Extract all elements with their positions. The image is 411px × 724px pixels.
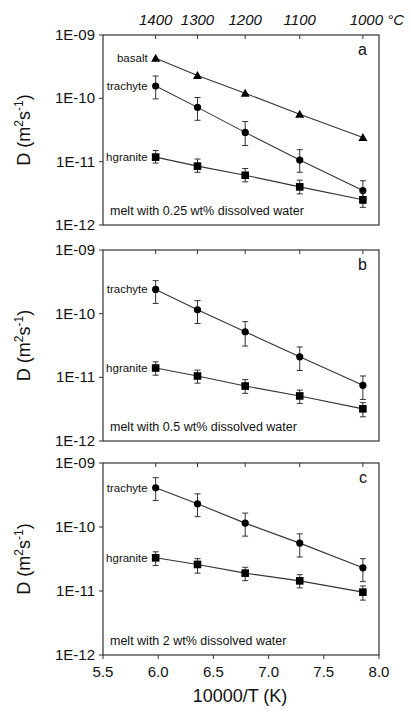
panel-letter: c xyxy=(359,469,367,486)
data-point-circle xyxy=(359,564,366,571)
series-label: trachyte xyxy=(107,80,148,92)
series-label: trachyte xyxy=(107,482,148,494)
data-point-circle xyxy=(242,328,249,335)
series-hgranite: hgranite xyxy=(106,151,367,208)
x-axis: 5.56.06.57.07.58.0 xyxy=(93,655,390,680)
x-tick-label: 8.0 xyxy=(369,663,390,680)
data-point-square xyxy=(359,588,367,596)
top-axis-tick-label: 1300 xyxy=(181,11,215,28)
data-point-circle xyxy=(296,540,303,547)
series-label: hgranite xyxy=(106,552,148,564)
x-tick-label: 7.0 xyxy=(258,663,279,680)
x-tick-label: 6.0 xyxy=(148,663,169,680)
series-hgranite: hgranite xyxy=(106,362,367,417)
panel-frame xyxy=(103,250,379,441)
series-label: trachyte xyxy=(107,283,148,295)
series-label: basalt xyxy=(117,52,148,64)
data-point-square xyxy=(359,405,367,413)
panel-letter: b xyxy=(358,256,367,273)
series-label: hgranite xyxy=(106,151,148,163)
series-line xyxy=(156,488,363,568)
data-point-square xyxy=(194,372,202,380)
x-tick-label: 5.5 xyxy=(93,663,114,680)
series-trachyte: trachyte xyxy=(107,478,367,582)
data-point-square xyxy=(241,569,249,577)
x-axis-title: 10000/T (K) xyxy=(193,686,288,706)
series-line xyxy=(156,86,363,190)
panel-letter: a xyxy=(358,41,367,58)
data-point-square xyxy=(152,153,160,161)
top-axis-tick-label: 1000 °C xyxy=(350,11,405,28)
top-axis-tick-label: 1400 xyxy=(139,11,173,28)
panel-b: 1E-091E-101E-111E-12D (m2s-1)bmelt with … xyxy=(12,241,379,449)
series-line xyxy=(156,558,363,592)
data-point-triangle xyxy=(241,89,250,97)
data-point-square xyxy=(296,183,304,191)
y-tick-label: 1E-09 xyxy=(55,241,95,258)
x-tick-label: 6.5 xyxy=(203,663,224,680)
cut-off-caption xyxy=(0,714,411,724)
data-point-square xyxy=(296,392,304,400)
panel-c: 1E-091E-101E-111E-12D (m2s-1)cmelt with … xyxy=(12,454,379,663)
data-point-square xyxy=(152,554,160,562)
data-point-triangle xyxy=(295,110,304,118)
series-line xyxy=(156,157,363,200)
series-label: hgranite xyxy=(106,362,148,374)
y-tick-label: 1E-10 xyxy=(55,89,95,106)
y-axis-title: D (m2s-1) xyxy=(12,310,34,381)
panels: 1E-091E-101E-111E-12D (m2s-1)amelt with … xyxy=(12,26,379,663)
data-point-square xyxy=(194,561,202,569)
top-axis-tick-label: 1200 xyxy=(229,11,263,28)
data-point-circle xyxy=(296,353,303,360)
series-hgranite: hgranite xyxy=(106,552,367,600)
y-tick-label: 1E-12 xyxy=(55,432,95,449)
y-tick-label: 1E-09 xyxy=(55,454,95,471)
data-point-circle xyxy=(242,520,249,527)
y-tick-label: 1E-12 xyxy=(55,216,95,233)
series-line xyxy=(156,368,363,409)
diffusivity-figure: 14001300120011001000 °C 1E-091E-101E-111… xyxy=(0,0,411,724)
data-point-triangle xyxy=(151,54,160,62)
data-point-circle xyxy=(296,156,303,163)
y-tick-label: 1E-10 xyxy=(55,518,95,535)
data-point-square xyxy=(241,171,249,179)
panel-annotation: melt with 0.25 wt% dissolved water xyxy=(110,204,304,218)
y-tick-label: 1E-11 xyxy=(56,153,95,170)
top-axis-tick-label: 1100 xyxy=(284,11,317,28)
series-line xyxy=(156,289,363,385)
y-tick-label: 1E-11 xyxy=(56,582,95,599)
y-tick-label: 1E-09 xyxy=(55,26,95,43)
data-point-circle xyxy=(359,382,366,389)
data-point-triangle xyxy=(358,133,367,141)
y-tick-label: 1E-10 xyxy=(55,305,95,322)
data-point-circle xyxy=(152,83,159,90)
data-point-square xyxy=(296,577,304,585)
data-point-square xyxy=(152,364,160,372)
y-axis-title: D (m2s-1) xyxy=(12,94,34,165)
y-tick-label: 1E-11 xyxy=(56,368,95,385)
y-axis-title: D (m2s-1) xyxy=(12,523,34,594)
data-point-square xyxy=(194,162,202,170)
series-trachyte: trachyte xyxy=(107,76,367,203)
panel-annotation: melt with 0.5 wt% dissolved water xyxy=(110,420,297,434)
data-point-circle xyxy=(242,129,249,136)
panel-annotation: melt with 2 wt% dissolved water xyxy=(110,634,286,648)
data-point-square xyxy=(241,382,249,390)
data-point-square xyxy=(359,196,367,204)
data-point-circle xyxy=(194,306,201,313)
top-celsius-axis: 14001300120011001000 °C xyxy=(139,11,404,28)
data-point-triangle xyxy=(193,71,202,79)
series-basalt: basalt xyxy=(117,52,367,141)
data-point-circle xyxy=(194,104,201,111)
series-line xyxy=(156,58,363,137)
panel-a: 1E-091E-101E-111E-12D (m2s-1)amelt with … xyxy=(12,26,379,233)
y-tick-label: 1E-12 xyxy=(55,646,95,663)
series-trachyte: trachyte xyxy=(107,281,367,400)
x-tick-label: 7.5 xyxy=(313,663,334,680)
data-point-circle xyxy=(152,286,159,293)
data-point-circle xyxy=(152,484,159,491)
data-point-circle xyxy=(194,500,201,507)
